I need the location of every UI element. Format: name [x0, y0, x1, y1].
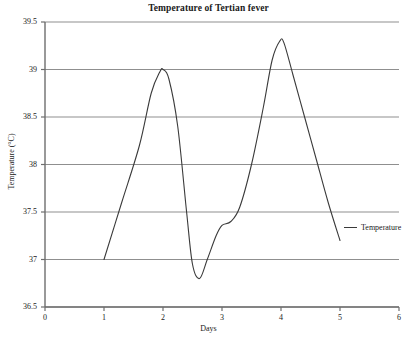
y-tick-label-39: 39 [3, 66, 37, 74]
tick-marks [41, 22, 399, 311]
x-tick-label-2: 2 [153, 314, 173, 322]
x-tick-label-5: 5 [330, 314, 350, 322]
x-tick-label-6: 6 [389, 314, 409, 322]
series-line-temperature [104, 39, 340, 279]
y-tick-label-39.5: 39.5 [3, 18, 37, 26]
legend-line-swatch [344, 227, 357, 228]
x-axis-title: Days [0, 324, 417, 333]
chart-container: Temperature of Tertian fever 36.53737.53… [0, 0, 417, 347]
chart-legend: Temperature [344, 223, 401, 232]
y-axis-title: Temperature (°C) [7, 107, 16, 217]
data-series [104, 39, 340, 279]
gridlines [45, 22, 399, 307]
x-tick-label-4: 4 [271, 314, 291, 322]
y-tick-label-37: 37 [3, 256, 37, 264]
x-tick-label-0: 0 [35, 314, 55, 322]
y-tick-label-36.5: 36.5 [3, 303, 37, 311]
x-tick-label-3: 3 [212, 314, 232, 322]
chart-canvas [0, 0, 417, 347]
x-tick-label-1: 1 [94, 314, 114, 322]
legend-label-temperature: Temperature [361, 223, 401, 232]
